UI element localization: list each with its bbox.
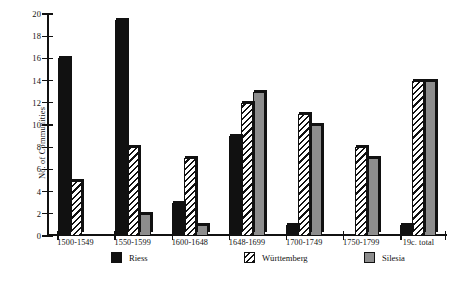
chart-legend: RiessWürttembergSilesia [47,252,447,272]
y-tick [42,80,53,81]
bar-riess-0 [58,58,70,236]
x-tick-label: 1700-1749 [286,238,322,247]
x-tick-label: 1648-1699 [229,238,265,247]
bar-riess-6 [400,225,412,236]
y-tick-label: 20 [32,9,41,19]
legend-item-riess: Riess [111,252,148,263]
y-tick [42,191,53,192]
y-tick [42,213,53,214]
legend-label: Silesia [382,253,405,263]
x-tick [445,231,446,240]
bar-riess-3 [229,136,241,236]
bar-wrttemberg-5 [355,147,367,236]
x-tick-label: 1500-1549 [57,238,93,247]
y-tick-label: 6 [37,164,41,174]
plot-area: 02468101214161820 1500-15491550-15991600… [47,14,447,236]
legend-item-silesia: Silesia [364,252,405,263]
y-tick-label: 14 [32,76,41,86]
x-tick-label: 1600-1648 [172,238,208,247]
bar-riess-2 [172,203,184,236]
y-tick [42,147,53,148]
y-tick-label: 18 [32,31,41,41]
legend-swatch-icon [244,252,255,263]
y-tick [42,13,53,14]
y-tick-label: 12 [32,98,41,108]
bar-riess-4 [286,225,298,236]
x-tick-label: 1550-1599 [115,238,151,247]
x-tick-label: 1750-1799 [343,238,379,247]
legend-swatch-icon [111,252,122,263]
y-tick-label: 8 [37,142,41,152]
bar-wrttemberg-6 [412,81,424,236]
legend-swatch-icon [364,252,375,263]
bar-riess-1 [115,20,127,236]
legend-item-wrttemberg: Württemberg [244,252,308,263]
y-tick-label: 10 [32,120,41,130]
y-tick [42,235,53,236]
bar-chart: No. of Communities 02468101214161820 150… [0,0,462,286]
x-tick-label: 19c. total [403,238,434,247]
bar-wrttemberg-4 [298,114,310,236]
y-tick [42,36,53,37]
y-tick-label: 2 [37,209,41,219]
y-tick-label: 0 [37,231,41,241]
y-tick-label: 16 [32,53,41,63]
legend-label: Riess [129,253,148,263]
y-tick [42,124,53,125]
y-tick-label: 4 [37,187,41,197]
y-tick [42,102,53,103]
y-tick [42,169,53,170]
legend-label: Württemberg [262,253,308,263]
y-tick [42,58,53,59]
